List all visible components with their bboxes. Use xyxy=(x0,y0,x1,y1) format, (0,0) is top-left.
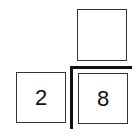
division-bracket-side xyxy=(70,67,73,129)
divisor-box: 2 xyxy=(16,72,66,123)
quotient-box[interactable] xyxy=(77,9,127,61)
division-bracket-top xyxy=(70,66,132,69)
dividend-box: 8 xyxy=(78,73,128,124)
